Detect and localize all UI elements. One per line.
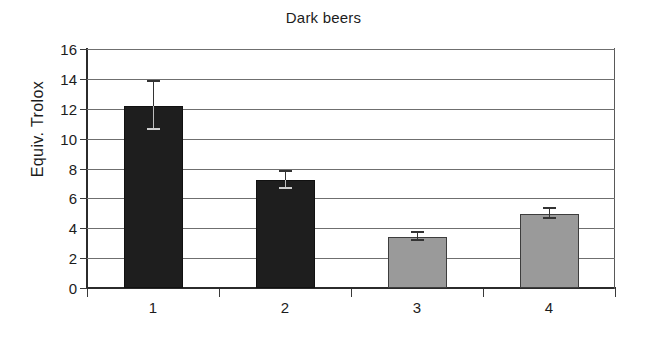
y-axis-tick-mark (80, 49, 87, 50)
y-axis-tick-label: 2 (41, 251, 77, 266)
x-axis-tick-mark (87, 289, 88, 297)
x-axis-tick-mark (219, 289, 220, 297)
y-axis-tick-mark (80, 169, 87, 170)
gridline (87, 79, 615, 80)
y-axis-tick-label: 4 (41, 221, 77, 236)
y-axis-tick-mark (80, 139, 87, 140)
y-axis-tick-label: 14 (41, 72, 77, 87)
y-axis-tick-label: 16 (41, 42, 77, 57)
y-axis-tick-label: 12 (41, 102, 77, 117)
bar (520, 214, 579, 288)
bar (256, 180, 315, 288)
error-bar-cap-lower (543, 217, 556, 219)
x-axis-tick-label: 2 (255, 299, 315, 316)
y-axis-tick-label: 10 (41, 132, 77, 147)
bar (124, 106, 183, 288)
y-axis-tick-mark (80, 288, 87, 289)
error-bar-stem (153, 82, 154, 106)
error-bar-cap-upper (411, 231, 424, 233)
x-axis-tick-label: 1 (123, 299, 183, 316)
error-bar-cap-lower (411, 239, 424, 241)
y-axis-tick-mark (80, 228, 87, 229)
x-axis-tick-mark (483, 289, 484, 297)
error-bar-stem (153, 106, 154, 130)
error-bar-cap-upper (279, 170, 292, 172)
error-bar-cap-upper (543, 207, 556, 209)
chart-figure: Dark beers Equiv. Trolox 0246810121416 1… (0, 0, 647, 337)
bar (388, 237, 447, 288)
plot-area (87, 49, 615, 288)
error-bar-stem (285, 172, 286, 181)
y-axis-tick-label: 6 (41, 191, 77, 206)
error-bar-cap-lower (147, 128, 160, 130)
y-axis-tick-label: 0 (41, 281, 77, 296)
y-axis-tick-label: 8 (41, 162, 77, 177)
y-axis-tick-mark (80, 79, 87, 80)
x-axis-tick-label: 4 (519, 299, 579, 316)
y-axis-tick-mark (80, 198, 87, 199)
error-bar-cap-upper (147, 80, 160, 82)
y-axis-tick-mark (80, 258, 87, 259)
error-bar-cap-lower (279, 187, 292, 189)
gridline (87, 49, 615, 50)
x-axis-tick-mark (351, 289, 352, 297)
x-axis-tick-label: 3 (387, 299, 447, 316)
x-axis-tick-mark (615, 289, 616, 297)
y-axis-tick-mark (80, 109, 87, 110)
